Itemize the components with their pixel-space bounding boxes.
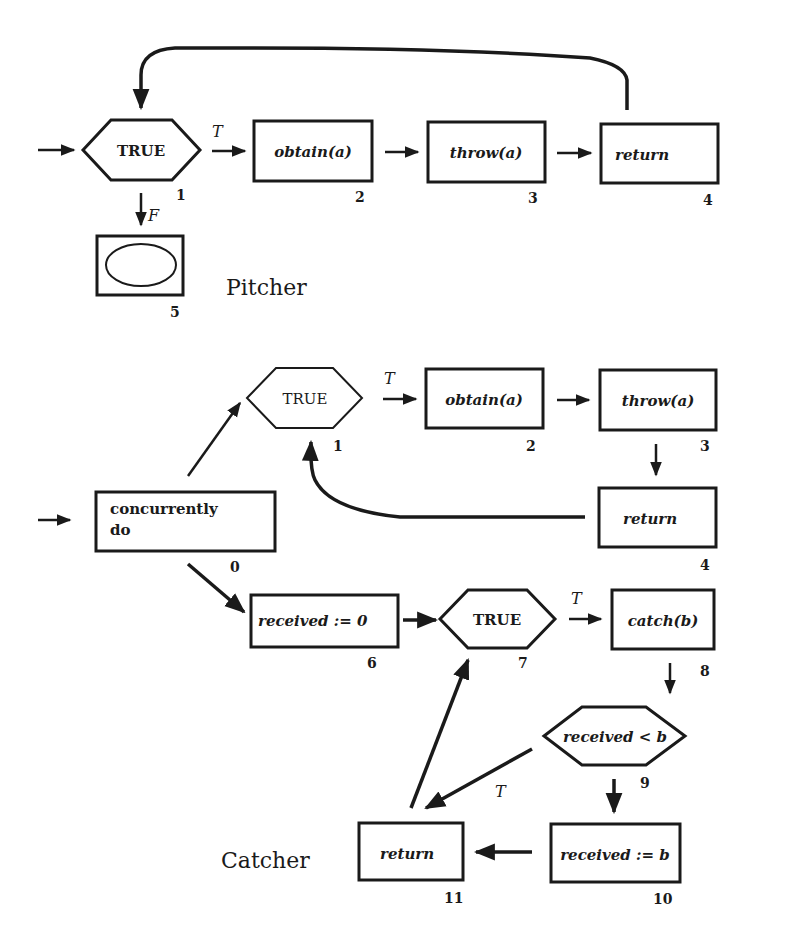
pitcher-node-4-label: return	[615, 146, 669, 164]
catcher-node-9-label: received < b	[563, 728, 667, 746]
pitcher-caption: Pitcher	[226, 275, 307, 300]
catcher-node-1-number: 1	[333, 438, 343, 454]
flowchart-canvas: TRUE 1 T obtain(a) 2 throw(a) 3 return 4	[0, 0, 792, 945]
pitcher-node-1-decision[interactable]: TRUE 1	[83, 120, 200, 203]
catcher-node-4-label: return	[623, 510, 677, 528]
catcher-node-2-obtain[interactable]: obtain(a) 2	[426, 369, 543, 454]
catcher-node-7-label: TRUE	[473, 611, 521, 629]
catcher-node-0-concurrently-do[interactable]: concurrently do 0	[96, 492, 275, 575]
catcher-node-11-number: 11	[444, 890, 463, 906]
catcher-node-1-decision[interactable]: TRUE 1	[247, 368, 362, 454]
pitcher-node-1-label: TRUE	[117, 142, 165, 160]
pitcher-node-3-number: 3	[528, 190, 538, 206]
pitcher-edge-4-1-loop	[141, 48, 627, 110]
terminal-ellipse-icon	[106, 244, 176, 286]
catcher-node-3-label: throw(a)	[622, 392, 695, 410]
catcher-node-0-number: 0	[230, 559, 240, 575]
pitcher-node-1-number: 1	[176, 187, 186, 203]
catcher-edge-11-7	[411, 660, 468, 808]
catcher-edge-4-1-loop	[311, 442, 585, 517]
pitcher-node-3-label: throw(a)	[450, 144, 523, 162]
catcher-node-0-label-line1: concurrently	[110, 500, 219, 518]
catcher-node-8-catch[interactable]: catch(b) 8	[612, 590, 714, 679]
catcher-node-2-number: 2	[526, 438, 536, 454]
catcher-node-2-label: obtain(a)	[445, 391, 523, 409]
catcher-edge-0-1	[188, 403, 240, 476]
catcher-node-9-number: 9	[640, 775, 650, 791]
catcher-node-10-number: 10	[653, 891, 673, 907]
catcher-node-1-label: TRUE	[283, 390, 328, 408]
catcher-caption: Catcher	[221, 848, 310, 873]
catcher-node-0-label-line2: do	[110, 521, 131, 539]
catcher-node-3-number: 3	[700, 438, 710, 454]
catcher-node-10-received-assign[interactable]: received := b 10	[551, 824, 680, 907]
catcher-node-6-received-init[interactable]: received := 0 6	[251, 595, 398, 671]
pitcher-node-4-number: 4	[703, 192, 713, 208]
catcher-node-7-number: 7	[518, 655, 528, 671]
pitcher-diagram: TRUE 1 T obtain(a) 2 throw(a) 3 return 4	[38, 48, 718, 320]
catcher-edge-1-2-label: T	[384, 369, 396, 388]
catcher-diagram: concurrently do 0 TRUE 1 T obtain(a) 2 t…	[38, 368, 716, 907]
catcher-edge-9-11-label: T	[495, 782, 507, 801]
pitcher-node-2-obtain[interactable]: obtain(a) 2	[254, 121, 372, 205]
catcher-node-6-number: 6	[367, 655, 377, 671]
pitcher-node-5-number: 5	[170, 304, 180, 320]
pitcher-node-5-terminal[interactable]: 5	[97, 236, 183, 320]
catcher-node-8-number: 8	[700, 663, 710, 679]
catcher-node-10-label: received := b	[560, 846, 670, 864]
catcher-node-9-decision[interactable]: received < b 9	[544, 707, 685, 791]
catcher-node-3-throw[interactable]: throw(a) 3	[600, 370, 716, 454]
catcher-edge-7-8-label: T	[571, 589, 583, 608]
catcher-node-4-return[interactable]: return 4	[599, 488, 716, 573]
pitcher-node-2-label: obtain(a)	[274, 143, 352, 161]
catcher-node-4-number: 4	[700, 557, 710, 573]
pitcher-edge-1-2-label: T	[212, 122, 224, 141]
catcher-node-7-decision[interactable]: TRUE 7	[440, 590, 555, 671]
pitcher-node-3-throw[interactable]: throw(a) 3	[428, 122, 545, 206]
pitcher-node-2-number: 2	[355, 189, 365, 205]
catcher-node-11-return[interactable]: return 11	[359, 823, 463, 906]
catcher-node-6-label: received := 0	[258, 612, 368, 630]
catcher-node-8-label: catch(b)	[628, 612, 699, 630]
flowchart-svg: TRUE 1 T obtain(a) 2 throw(a) 3 return 4	[0, 0, 792, 945]
catcher-edge-9-11	[426, 749, 532, 808]
pitcher-edge-1-5-label: F	[147, 206, 160, 225]
catcher-node-11-label: return	[380, 845, 434, 863]
pitcher-node-4-return[interactable]: return 4	[601, 124, 718, 208]
